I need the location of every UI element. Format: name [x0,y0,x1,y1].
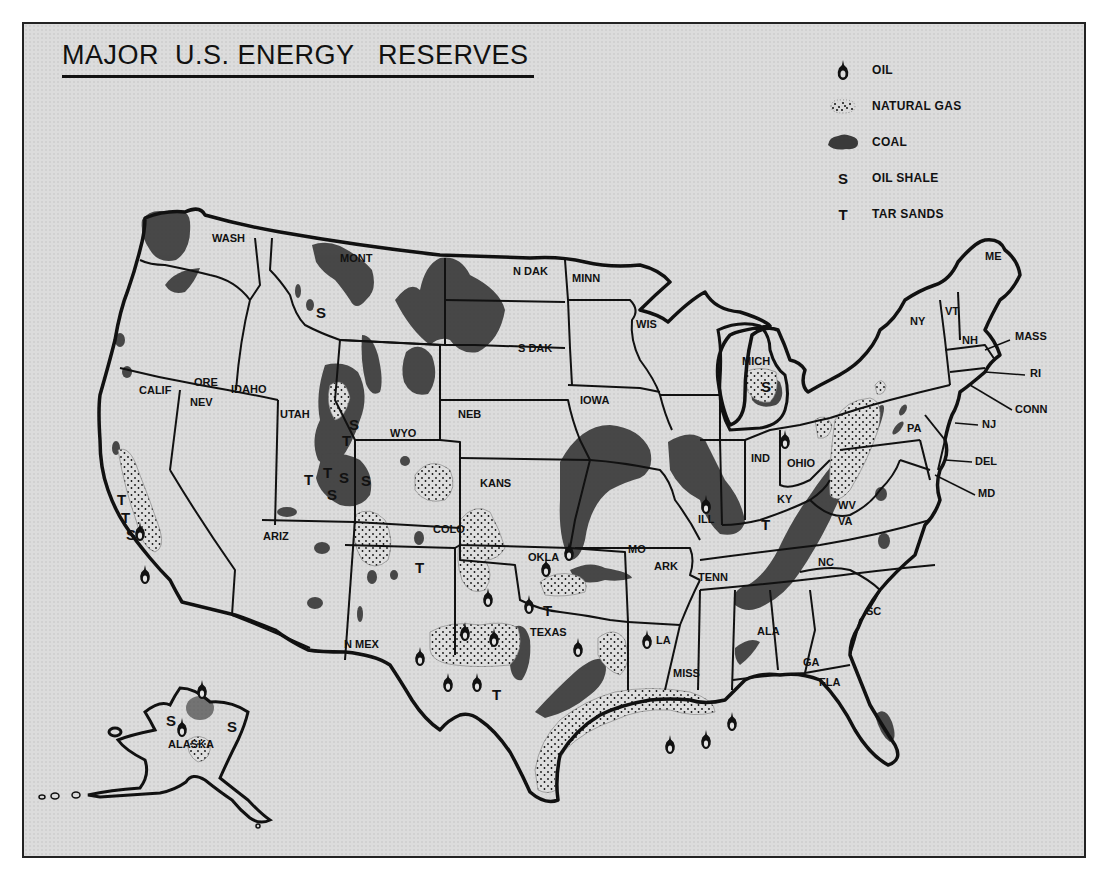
oil-shale-s-icon: S [349,416,359,433]
tar-sands-t-icon: T [342,432,351,449]
oil-drop-icon [483,588,493,607]
oil-shale-s-icon: S [126,526,136,543]
state-label-minn: MINN [572,272,600,284]
state-label-wyo: WYO [390,427,417,439]
state-label-va: VA [838,515,853,527]
state-label-ga: GA [803,656,820,668]
state-label-mich: MICH [742,355,770,367]
state-label-neb: NEB [458,408,481,420]
oil-drop-icon [727,712,737,731]
state-label-nev: NEV [190,396,213,408]
state-label-colo: COLO [433,523,465,535]
state-label-n-mex: N MEX [344,638,380,650]
oil-drop-icon [665,735,675,754]
oil-drop-icon [642,630,652,649]
state-label-ohio: OHIO [787,457,816,469]
oil-shale-s-icon: S [316,304,326,321]
oil-drop-icon [197,680,207,699]
state-label-mont: MONT [340,252,373,264]
oil-shale-s-icon: S [227,718,237,735]
tar-sands-t-icon: T [323,464,332,481]
state-label-wis: WIS [636,318,657,330]
state-label-okla: OKLA [528,551,559,563]
tar-sands-t-icon: T [117,491,126,508]
state-label-pa: PA [907,422,922,434]
state-label-del: DEL [975,455,997,467]
oil-drop-icon [140,565,150,584]
state-label-s-dak: S DAK [518,342,552,354]
oil-shale-s-icon: S [166,712,176,729]
oil-drop-icon [524,595,534,614]
tar-sands-t-icon: T [121,509,130,526]
state-label-ny: NY [910,315,926,327]
oil-drop-icon [177,718,187,737]
state-label-wash: WASH [212,232,245,244]
oil-drop-icon [443,673,453,692]
state-label-la: LA [656,634,671,646]
oil-drop-icon [415,647,425,666]
state-label-sc: SC [866,605,881,617]
state-label-nh: NH [962,334,978,346]
state-label-tenn: TENN [698,571,728,583]
state-label-ill: ILL [698,513,715,525]
state-label-calif: CALIF [139,384,172,396]
state-label-nj: NJ [982,418,996,430]
state-label-n-dak: N DAK [513,265,548,277]
state-label-miss: MISS [673,667,700,679]
oil-drop-icon [780,430,790,449]
state-label-mass: MASS [1015,330,1047,342]
oil-drop-icon [472,673,482,692]
state-label-vt: VT [945,305,959,317]
state-label-mo: MO [628,543,646,555]
state-label-idaho: IDAHO [231,383,267,395]
state-label-me: ME [985,250,1002,262]
tar-sands-t-icon: T [415,559,424,576]
alaska-outline [88,688,270,822]
state-label-ore: ORE [194,376,218,388]
state-label-wv: WV [838,499,856,511]
oil-shale-s-icon: S [327,486,337,503]
state-label-nc: NC [818,556,834,568]
state-label-utah: UTAH [280,408,310,420]
state-label-ind: IND [751,452,770,464]
state-label-kans: KANS [480,477,511,489]
state-label-ariz: ARIZ [263,530,289,542]
state-label-conn: CONN [1015,403,1047,415]
state-label-iowa: IOWA [580,394,609,406]
state-label-ark: ARK [654,560,678,572]
state-label-ala: ALA [757,625,780,637]
oil-drop-icon [573,638,583,657]
tar-sands-t-icon: T [543,602,552,619]
oil-shale-s-icon: S [339,469,349,486]
state-label-alaska: ALASKA [168,738,214,750]
oil-shale-s-icon: S [761,378,771,395]
tar-sands-t-icon: T [304,471,313,488]
state-label-texas: TEXAS [530,626,567,638]
tar-sands-t-icon: T [492,686,501,703]
tar-sands-t-icon: T [761,516,770,533]
state-label-fla: FLA [819,676,840,688]
state-label-ky: KY [777,493,793,505]
oil-shale-s-icon: S [361,472,371,489]
state-label-md: MD [978,487,995,499]
oil-drop-icon [701,730,711,749]
us-map: WASH MONT N DAK MINN ORE IDAHO CALIF NEV… [0,0,1096,878]
state-label-ri: RI [1030,367,1041,379]
